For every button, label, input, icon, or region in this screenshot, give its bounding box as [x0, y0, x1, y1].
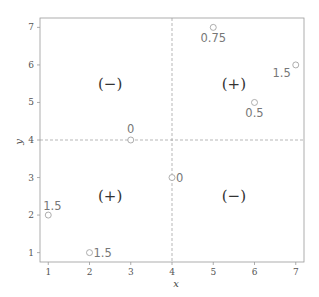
y-axis: 1234567	[28, 22, 40, 257]
region-label: (+)	[98, 187, 122, 205]
y-tick-label: 1	[28, 248, 34, 258]
y-tick-label: 2	[28, 210, 34, 220]
data-point	[87, 250, 93, 256]
y-tick-label: 7	[28, 22, 34, 32]
data-point	[169, 175, 175, 181]
data-point-label: 1.5	[94, 246, 112, 260]
data-points: 1.51.5000.750.51.5	[43, 24, 299, 259]
data-point-label: 1.5	[272, 66, 290, 80]
x-tick-label: 7	[293, 267, 299, 277]
reference-lines	[40, 18, 304, 262]
data-point-label: 0	[127, 122, 134, 136]
scatter-chart: 1234567 1234567 x y (−)(+)(+)(−) 1.51.50…	[0, 0, 319, 297]
data-point-label: 0.5	[245, 106, 263, 120]
y-tick-label: 4	[28, 135, 34, 145]
y-tick-label: 6	[28, 60, 34, 70]
data-point-label: 0	[176, 171, 183, 185]
region-label: (−)	[98, 75, 122, 93]
region-label: (+)	[222, 75, 246, 93]
x-axis: 1234567	[45, 262, 299, 277]
x-tick-label: 2	[87, 267, 93, 277]
data-point	[128, 137, 134, 143]
region-label: (−)	[222, 187, 246, 205]
x-tick-label: 5	[210, 267, 216, 277]
data-point	[210, 24, 216, 30]
x-tick-label: 1	[45, 267, 51, 277]
x-tick-label: 3	[128, 267, 134, 277]
data-point-label: 1.5	[43, 199, 61, 213]
y-tick-label: 5	[28, 97, 34, 107]
y-axis-title: y	[13, 139, 24, 146]
x-tick-label: 6	[252, 267, 258, 277]
data-point	[293, 62, 299, 68]
x-axis-title: x	[173, 278, 179, 289]
data-point-label: 0.75	[200, 31, 226, 45]
x-tick-label: 4	[169, 267, 175, 277]
y-tick-label: 3	[28, 173, 34, 183]
data-point	[252, 99, 258, 105]
